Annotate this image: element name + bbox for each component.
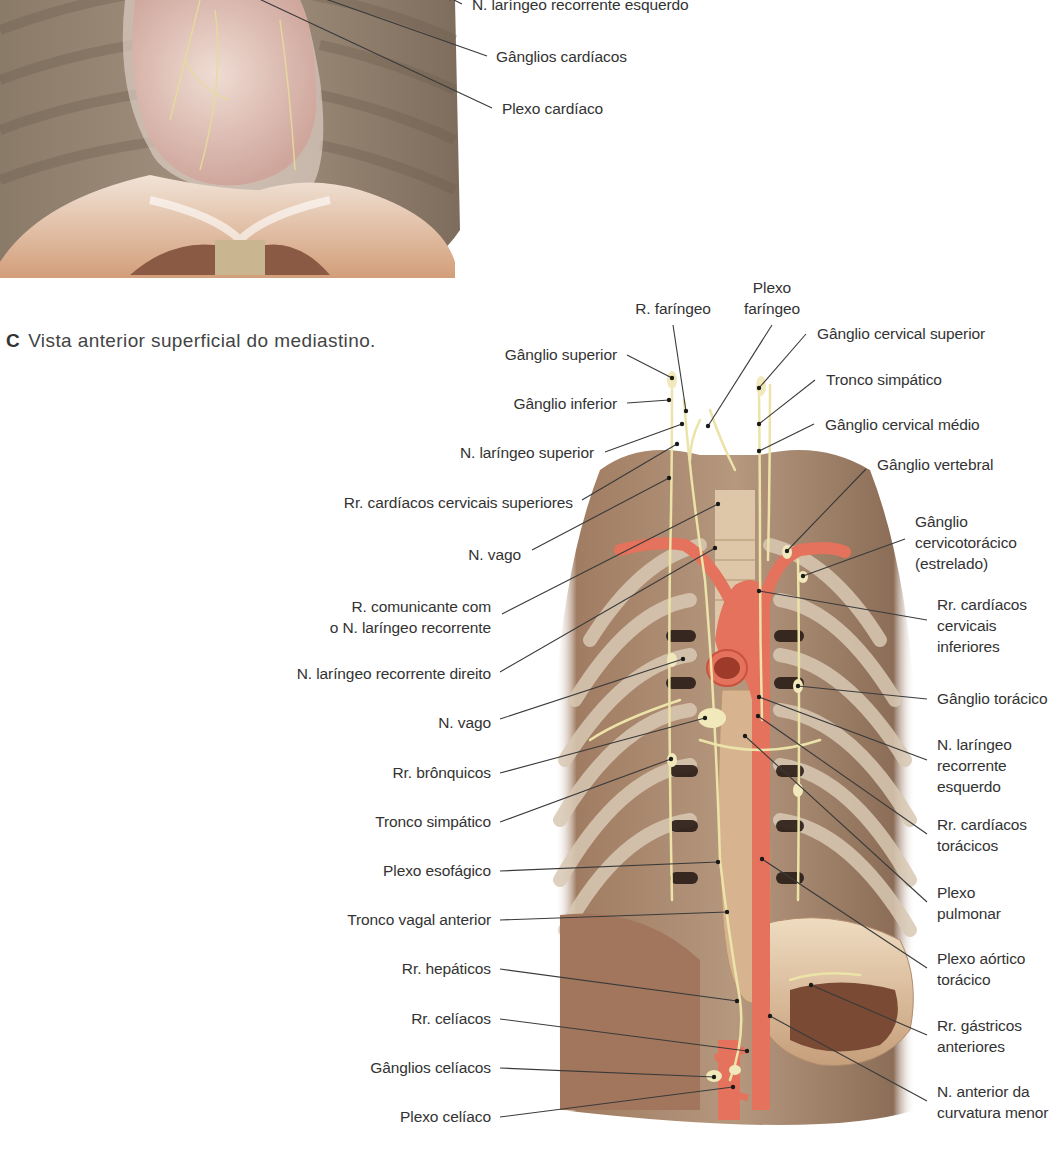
leader-line-plexo-faringeo [708,325,772,426]
label-plexo-esofagico: Plexo esofágico [383,860,491,881]
pointer-dot-rr-bronquicos [703,716,707,720]
label-ganglio-toracico: Gânglio torácico [937,688,1047,709]
leader-line-tronco-simpatico-dir [759,380,815,424]
pointer-dot-ganglio-inferior [667,398,671,402]
pointer-dot-r-faringeo [684,409,688,413]
pointer-dot-n-anterior-curvatura-menor [768,1014,772,1018]
pointer-dot-plexo-pulmonar [743,734,747,738]
pointer-dot-ganglio-superior [670,376,674,380]
pointer-dot-rr-hepaticos [735,999,739,1003]
label-r-comunicante: R. comunicante com o N. laríngeo recorre… [330,596,491,638]
label-ganglio-vertebral: Gânglio vertebral [877,454,993,475]
pointer-dot-plexo-celiaco [731,1085,735,1089]
label-ganglio-inferior: Gânglio inferior [513,393,617,414]
pointer-dot-rr-cardiacos-toracicos [756,714,760,718]
label-plexo-faringeo: Plexo faríngeo [712,277,832,319]
pointer-dot-plexo-esofagico [716,860,720,864]
pointer-dot-tronco-simpatico-dir [757,422,761,426]
label-n-laringeo-superior: N. laríngeo superior [460,442,594,463]
pointer-dot-r-comunicante [716,502,720,506]
pointer-dot-n-laringeo-recorrente-esquerdo [757,695,761,699]
top-thorax-illustration [0,0,460,278]
label-ganglios-cardiacos: Gânglios cardíacos [496,46,627,67]
leader-line-ganglio-inferior [627,400,669,403]
label-n-laringeo-recorrente-esquerdo-top: N. laríngeo recorrente esquerdo [472,0,689,15]
leader-line-ganglio-cervical-superior [759,334,806,388]
label-tronco-vagal-anterior: Tronco vagal anterior [347,909,491,930]
pointer-dot-ganglios-celiacos [712,1075,716,1079]
pointer-dot-plexo-aortico-toracico [760,857,764,861]
label-n-vago-1: N. vago [468,544,521,565]
pointer-dot-rr-cardiacos-cervicais-superiores [675,442,679,446]
label-ganglio-superior: Gânglio superior [505,344,617,365]
label-n-vago-2: N. vago [438,712,491,733]
label-ganglio-cervicotoracico: Gânglio cervicotorácico (estrelado) [915,511,1017,574]
label-tronco-simpatico-dir: Tronco simpático [826,369,942,390]
label-plexo-aortico-toracico: Plexo aórtico torácico [937,948,1025,990]
pointer-dot-tronco-simpatico-esq [669,757,673,761]
label-rr-cardiacos-cervicais-inferiores: Rr. cardíacos cervicais inferiores [937,594,1027,657]
leader-line-r-faringeo [673,325,686,411]
pointer-dot-rr-gastricos-anteriores [809,983,813,987]
label-rr-hepaticos: Rr. hepáticos [402,958,491,979]
pointer-dot-tronco-vagal-anterior [725,910,729,914]
label-ganglios-celiacos: Gânglios celíacos [370,1057,491,1078]
pointer-dot-rr-celiacos [745,1049,749,1053]
pointer-dot-n-vago-1 [667,476,671,480]
pointer-dot-ganglio-cervical-superior [757,386,761,390]
label-plexo-cardiaco: Plexo cardíaco [502,98,603,119]
pointer-dot-plexo-faringeo [706,424,710,428]
label-rr-cardiacos-cervicais-superiores: Rr. cardíacos cervicais superiores [344,492,573,513]
label-n-laringeo-recorrente-direito: N. laríngeo recorrente direito [297,663,491,684]
pointer-dot-ganglio-cervical-medio [757,449,761,453]
leader-line-ganglio-cervical-medio [759,424,814,451]
caption-text: Vista anterior superficial do mediastino… [28,330,376,351]
pointer-dot-ganglio-cervicotoracico [801,574,805,578]
label-plexo-pulmonar: Plexo pulmonar [937,882,1001,924]
label-tronco-simpatico-esq: Tronco simpático [375,811,491,832]
pointer-dot-n-laringeo-recorrente-direito [713,546,717,550]
label-n-anterior-curvatura-menor: N. anterior da curvatura menor [937,1081,1048,1123]
pointer-dot-ganglio-toracico [796,684,800,688]
pointer-dot-ganglio-vertebral [785,549,789,553]
anatomy-illustration [0,0,1060,1161]
leader-line-ganglio-superior [627,355,672,378]
label-ganglio-cervical-superior: Gânglio cervical superior [817,323,985,344]
caption-letter: C [6,330,20,351]
label-rr-cardiacos-toracicos: Rr. cardíacos torácicos [937,814,1027,856]
label-rr-celiacos: Rr. celíacos [411,1008,491,1029]
pointer-dot-n-laringeo-superior [680,422,684,426]
figure-caption: CVista anterior superficial do mediastin… [6,330,376,352]
label-ganglio-cervical-medio: Gânglio cervical médio [825,414,980,435]
label-rr-bronquicos: Rr. brônquicos [392,762,491,783]
label-plexo-celiaco: Plexo celíaco [400,1106,491,1127]
label-n-laringeo-recorrente-esquerdo: N. laríngeo recorrente esquerdo [937,734,1012,797]
pointer-dot-n-vago-2 [681,657,685,661]
pointer-dot-rr-cardiacos-cervicais-inferiores [757,589,761,593]
label-rr-gastricos-anteriores: Rr. gástricos anteriores [937,1015,1022,1057]
